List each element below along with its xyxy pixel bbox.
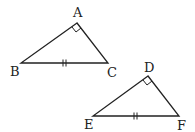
- triangle-def: D E F: [84, 60, 186, 132]
- vertex-label-c: C: [107, 65, 117, 80]
- vertex-label-e: E: [84, 117, 94, 132]
- triangle-def-outline: [93, 76, 179, 116]
- vertex-label-d: D: [144, 60, 154, 75]
- vertex-label-a: A: [72, 5, 83, 20]
- geometry-diagram: A B C D E F: [0, 0, 195, 132]
- triangle-abc-outline: [21, 23, 108, 63]
- vertex-label-b: B: [10, 64, 20, 79]
- vertex-label-f: F: [177, 118, 186, 132]
- triangle-abc: A B C: [10, 5, 117, 80]
- right-angle-mark-a: [72, 27, 81, 32]
- right-angle-mark-d: [143, 80, 152, 85]
